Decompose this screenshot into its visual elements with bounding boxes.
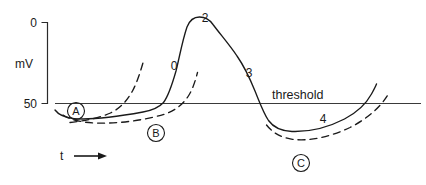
y-axis [42, 23, 48, 104]
marker-c-label: C [297, 157, 305, 169]
marker-a-label: A [72, 105, 80, 117]
phase-label-0: 0 [171, 59, 178, 73]
y-axis-title: mV [15, 57, 33, 71]
threshold-label: threshold [272, 88, 323, 102]
phase-label-3: 3 [246, 66, 253, 80]
action-potential-figure: 0 50 mV threshold 0 2 3 4 A B [0, 0, 426, 185]
y-axis-line [42, 23, 48, 104]
figure-canvas: 0 50 mV threshold 0 2 3 4 A B [0, 0, 426, 185]
y-tick-label-50: 50 [24, 97, 38, 111]
phase-label-2: 2 [202, 11, 209, 25]
marker-a: A [68, 103, 85, 120]
marker-b-label: B [152, 127, 159, 139]
y-tick-label-0: 0 [30, 16, 37, 30]
marker-b: B [148, 125, 165, 142]
right-arrow-icon [74, 152, 107, 159]
x-axis-title: t [60, 149, 64, 163]
marker-c: C [293, 155, 310, 172]
phase-label-4: 4 [320, 112, 327, 126]
action-potential-solid-curve [55, 17, 377, 132]
